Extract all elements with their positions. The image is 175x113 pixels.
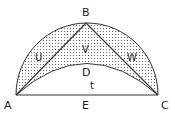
label-t: t (90, 80, 94, 91)
label-e: E (82, 99, 89, 112)
label-a: A (4, 99, 12, 112)
geometry-diagram: B A C D E U V W t (0, 0, 175, 113)
label-w: W (127, 52, 137, 63)
label-b: B (82, 6, 90, 19)
label-c: C (161, 99, 169, 112)
label-v: V (82, 44, 89, 55)
label-u: U (35, 52, 42, 63)
label-d: D (82, 66, 90, 79)
